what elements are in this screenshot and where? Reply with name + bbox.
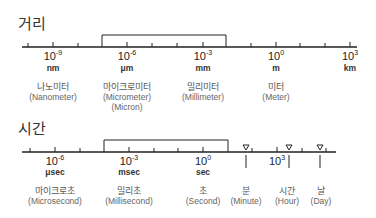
- distance-unit-label: m: [256, 63, 296, 73]
- time-unit-label: msec: [109, 167, 149, 177]
- time-exp-label: 10-3: [109, 154, 149, 167]
- distance-en-label-alt: (Micron): [82, 102, 172, 112]
- distance-unit-label: μm: [107, 63, 147, 73]
- time-unit-label: sec: [183, 167, 223, 177]
- time-exp-label: 103: [257, 154, 297, 167]
- distance-axis: [22, 35, 357, 47]
- distance-title: 거리: [18, 12, 46, 33]
- distance-en-label: (Meter): [231, 92, 321, 102]
- distance-unit-label: mm: [183, 63, 223, 73]
- time-title: 시간: [18, 117, 46, 138]
- distance-exp-label: 103: [330, 49, 370, 62]
- distance-exp-label: 100: [256, 49, 296, 62]
- distance-exp-label: 10-9: [33, 49, 73, 62]
- distance-unit-label: nm: [33, 63, 73, 73]
- distance-unit-label: km: [330, 63, 370, 73]
- distance-exp-label: 10-6: [107, 49, 147, 62]
- distance-exp-label: 10-3: [183, 49, 223, 62]
- time-marker-en-label: (Day): [276, 196, 366, 206]
- time-exp-label: 100: [183, 154, 223, 167]
- time-exp-label: 10-6: [35, 154, 75, 167]
- time-unit-label: μsec: [35, 167, 75, 177]
